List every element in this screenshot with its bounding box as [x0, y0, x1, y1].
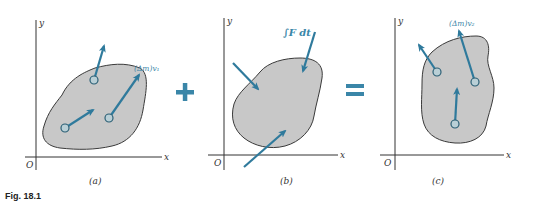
panel-label-c: (c) — [432, 176, 445, 186]
particle-c3 — [451, 120, 459, 128]
origin-label-c: O — [384, 158, 392, 168]
particle-c1 — [433, 68, 441, 76]
x-axis-label-b: x — [340, 150, 345, 160]
momentum-label-c: (Δm)v₂ — [449, 19, 475, 28]
impulse-label-b: ∫F dt — [283, 27, 311, 38]
y-axis-label-b: y — [226, 16, 233, 26]
x-axis-label-a: x — [164, 152, 169, 162]
y-axis-label-c: y — [397, 16, 404, 26]
figure-caption: Fig. 18.1 — [5, 191, 41, 201]
plus-operator — [176, 83, 194, 101]
origin-label-a: O — [26, 160, 34, 170]
origin-label-b: O — [214, 158, 222, 168]
impulse-momentum-diagram: y x O (Δm)v₁ (a) y x O ∫F dt (b) — [0, 0, 533, 202]
y-axis-label-a: y — [38, 18, 45, 28]
particle-c2 — [471, 78, 479, 86]
particle-a2 — [61, 124, 69, 132]
x-axis-label-c: x — [506, 150, 511, 160]
impulse-arrow-b1 — [233, 63, 258, 89]
equals-operator — [346, 84, 364, 96]
panel-c: y x O (Δm)v₂ (c) — [380, 16, 511, 186]
particle-a1 — [90, 76, 98, 84]
momentum-label-a: (Δm)v₁ — [134, 64, 160, 73]
panel-label-a: (a) — [89, 176, 102, 186]
panel-a: y x O (Δm)v₁ (a) — [25, 18, 169, 186]
particle-a3 — [105, 114, 113, 122]
panel-b: y x O ∫F dt (b) — [208, 16, 345, 186]
body-blob-b — [232, 58, 322, 148]
panel-label-b: (b) — [280, 176, 293, 186]
